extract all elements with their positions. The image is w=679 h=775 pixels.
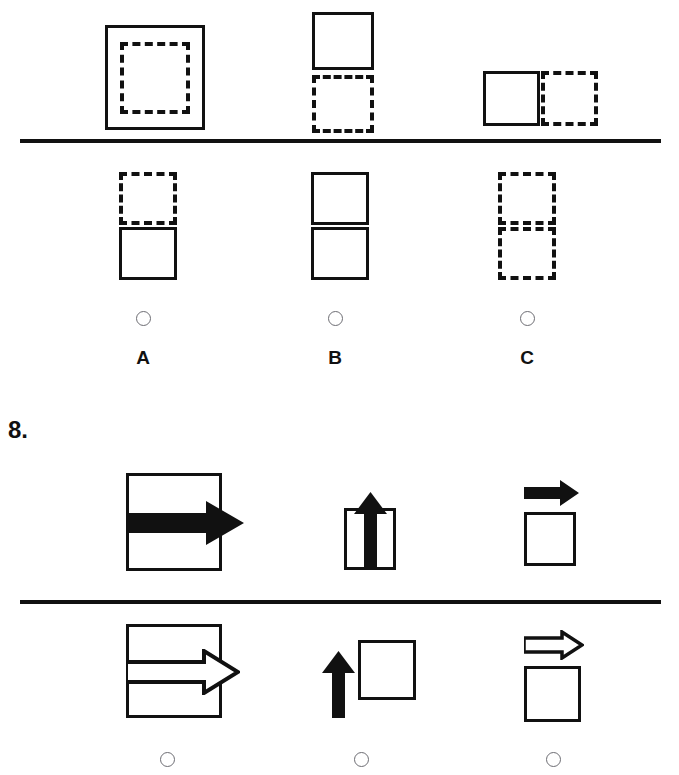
q7-label-a: A xyxy=(128,348,158,367)
solid-square xyxy=(524,512,576,566)
filled-up-arrow-icon xyxy=(322,651,355,718)
q7-radio-b[interactable] xyxy=(328,311,343,326)
filled-up-arrow-icon xyxy=(354,492,387,568)
question-number: 8. xyxy=(8,418,28,442)
test-page: A B C 8. xyxy=(0,0,679,775)
q8-option-c-figure xyxy=(524,630,604,720)
q8-radio-b[interactable] xyxy=(354,752,369,767)
filled-right-arrow-icon xyxy=(128,501,244,545)
q8-prompt-2 xyxy=(344,492,404,570)
outline-right-arrow-icon xyxy=(524,630,584,660)
solid-square xyxy=(524,666,581,722)
q8-option-a-figure xyxy=(126,624,256,718)
dashed-square xyxy=(119,172,177,225)
solid-square xyxy=(312,12,374,70)
q7-prompt-2 xyxy=(312,12,384,130)
q7-radio-a[interactable] xyxy=(136,311,151,326)
q7-prompt-3 xyxy=(483,71,608,129)
q8-prompt-3 xyxy=(524,480,596,570)
dashed-square xyxy=(541,71,598,126)
dashed-square xyxy=(312,75,374,133)
outline-right-arrow-icon xyxy=(126,649,240,695)
solid-square xyxy=(358,640,416,700)
q7-label-b: B xyxy=(320,348,350,367)
solid-square xyxy=(483,71,540,126)
filled-right-arrow-icon xyxy=(524,480,579,506)
q7-prompt-1 xyxy=(105,25,205,130)
solid-square xyxy=(311,227,369,280)
divider-top xyxy=(20,139,661,143)
q8-option-b-figure xyxy=(322,640,422,720)
q8-prompt-1 xyxy=(126,473,256,571)
dashed-square xyxy=(498,227,556,280)
q7-option-b-figure xyxy=(311,172,377,278)
q7-radio-c[interactable] xyxy=(520,311,535,326)
dashed-square xyxy=(498,172,556,225)
solid-square xyxy=(119,227,177,280)
q8-radio-a[interactable] xyxy=(160,752,175,767)
q7-label-c: C xyxy=(512,348,542,367)
solid-square xyxy=(311,172,369,225)
divider-bottom xyxy=(20,600,661,604)
dashed-square xyxy=(120,42,190,114)
q7-option-a-figure xyxy=(119,172,185,278)
q7-option-c-figure xyxy=(498,172,564,278)
q8-radio-c[interactable] xyxy=(546,752,561,767)
